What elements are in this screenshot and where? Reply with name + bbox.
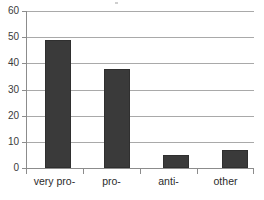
y-axis-label-50: 50 — [0, 32, 19, 42]
x-tick-boundary-0 — [26, 169, 27, 174]
x-tick-boundary-3 — [197, 169, 198, 174]
y-tick-30 — [22, 90, 26, 91]
x-axis-label-pro: pro- — [83, 176, 140, 187]
y-tick-20 — [22, 116, 26, 117]
bar-very-pro — [45, 40, 71, 168]
y-axis-label-20: 20 — [0, 111, 19, 121]
x-axis-label-anti: anti- — [140, 176, 197, 187]
y-axis-label-30: 30 — [0, 85, 19, 95]
y-axis-label-0: 0 — [0, 163, 19, 173]
bar-other — [222, 150, 248, 168]
x-axis-label-very-pro: very pro- — [26, 176, 83, 187]
scan-artifact-speck — [115, 2, 118, 4]
gridline-50 — [26, 37, 254, 38]
y-axis-label-10: 10 — [0, 137, 19, 147]
plot-area — [26, 11, 254, 168]
y-tick-10 — [22, 142, 26, 143]
y-tick-60 — [22, 11, 26, 12]
x-tick-boundary-2 — [140, 169, 141, 174]
y-axis-label-60: 60 — [0, 6, 19, 16]
bar-anti — [163, 155, 189, 168]
x-tick-boundary-4 — [253, 169, 254, 174]
y-axis-line — [26, 11, 27, 169]
x-axis-label-other: other — [197, 176, 254, 187]
bar-chart: 60 50 40 30 20 10 0 very pro- pro- anti-… — [0, 0, 264, 200]
bar-pro — [104, 69, 130, 168]
gridline-60 — [26, 11, 254, 12]
y-axis-label-40: 40 — [0, 58, 19, 68]
y-tick-50 — [22, 37, 26, 38]
x-tick-boundary-1 — [83, 169, 84, 174]
y-tick-40 — [22, 63, 26, 64]
